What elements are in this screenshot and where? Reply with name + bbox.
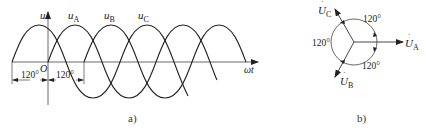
caption-b: b) bbox=[357, 112, 367, 125]
curve-label-uB: uB bbox=[104, 9, 115, 24]
phasor-label-UB: UB bbox=[340, 75, 353, 90]
curve-label-uC: uC bbox=[138, 9, 149, 24]
phasor-diagram: UA · UC · UB · 120° 120° 120° b) bbox=[312, 0, 419, 125]
dim-label-left: 120° bbox=[21, 70, 39, 80]
phasor-dot-UB: · bbox=[343, 68, 346, 77]
three-phase-figure: u O ωt uA uB uC 120° 120° a) UA · bbox=[0, 0, 426, 136]
curve-uC bbox=[12, 25, 188, 98]
phasor-dot-UC: · bbox=[321, 0, 324, 6]
origin-label: O bbox=[40, 63, 47, 74]
phasor-label-UA: UA bbox=[405, 37, 419, 52]
angle-label-left: 120° bbox=[312, 38, 330, 48]
caption-a: a) bbox=[128, 112, 137, 125]
curve-label-uA: uA bbox=[68, 9, 80, 24]
dim-label-right: 120° bbox=[56, 70, 74, 80]
phasor-dot-UA: · bbox=[408, 30, 411, 39]
y-axis-label: u bbox=[40, 9, 46, 21]
x-axis-label: ωt bbox=[244, 64, 254, 75]
angle-label-bottom-right: 120° bbox=[362, 61, 380, 71]
waveform-diagram: u O ωt uA uB uC 120° 120° a) bbox=[12, 9, 270, 125]
angle-label-top-right: 120° bbox=[363, 14, 381, 24]
phasor-label-UC: UC bbox=[318, 4, 331, 19]
